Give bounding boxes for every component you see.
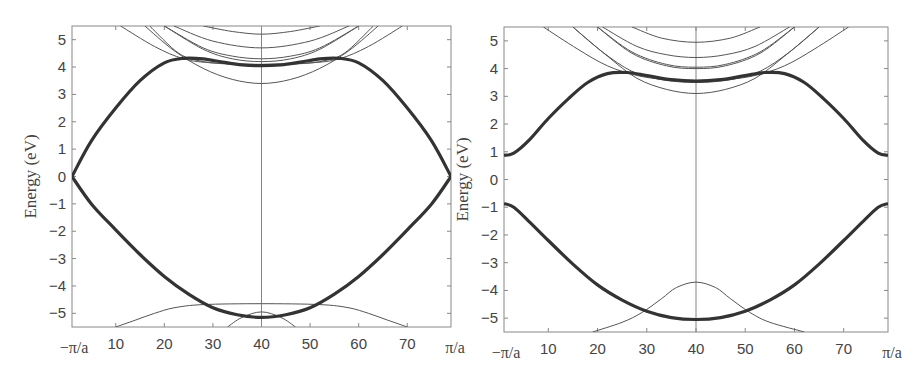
x-tick-label: 10 (540, 340, 557, 357)
x-tick-label: 40 (688, 340, 705, 357)
y-axis-label: Energy (eV) (453, 137, 472, 221)
y-tick-label: 3 (490, 87, 498, 104)
left-band-plot: 543210−1−2−3−4−510203040506070−π/aπ/aEne… (21, 26, 465, 356)
band-curve-lower-thin-bell (593, 282, 805, 332)
y-tick-label: −4 (481, 281, 498, 298)
y-tick-label: −2 (49, 222, 66, 239)
y-tick-label: 0 (58, 168, 66, 185)
y-tick-label: −3 (481, 254, 498, 271)
y-tick-label: 5 (58, 31, 66, 48)
x-tick-label: 20 (589, 340, 606, 357)
x-edge-label-left: −π/a (492, 344, 521, 361)
y-tick-label: 1 (58, 140, 66, 157)
y-tick-label: −4 (49, 277, 66, 294)
y-tick-label: −5 (49, 304, 66, 321)
y-tick-label: −1 (49, 195, 66, 212)
y-tick-label: 3 (58, 85, 66, 102)
y-tick-label: 4 (490, 60, 498, 77)
x-tick-label: 70 (835, 340, 852, 357)
y-tick-label: −3 (49, 250, 66, 267)
x-tick-label: 60 (786, 340, 803, 357)
x-tick-label: 50 (302, 335, 319, 352)
x-edge-label-left: −π/a (60, 339, 89, 356)
x-tick-label: 60 (350, 335, 367, 352)
right-band-plot: 543210−1−2−3−4−510203040506070−π/aπ/aEne… (453, 27, 902, 361)
x-tick-label: 10 (107, 335, 124, 352)
x-tick-label: 30 (205, 335, 222, 352)
y-tick-label: −5 (481, 309, 498, 326)
x-edge-label-right: π/a (445, 339, 465, 356)
y-tick-label: 2 (490, 115, 498, 132)
y-tick-label: 5 (490, 32, 498, 49)
x-edge-label-right: π/a (882, 344, 902, 361)
y-tick-label: −2 (481, 226, 498, 243)
y-tick-label: 1 (490, 143, 498, 160)
y-tick-label: −1 (481, 198, 498, 215)
y-tick-label: 2 (58, 113, 66, 130)
x-tick-label: 50 (737, 340, 754, 357)
y-axis-label: Energy (eV) (21, 134, 40, 218)
x-tick-label: 70 (399, 335, 416, 352)
x-tick-label: 20 (156, 335, 173, 352)
x-tick-label: 30 (638, 340, 655, 357)
y-tick-label: 0 (490, 171, 498, 188)
band-structure-figure: 543210−1−2−3−4−510203040506070−π/aπ/aEne… (0, 0, 919, 373)
x-tick-label: 40 (253, 335, 270, 352)
y-tick-label: 4 (58, 58, 66, 75)
